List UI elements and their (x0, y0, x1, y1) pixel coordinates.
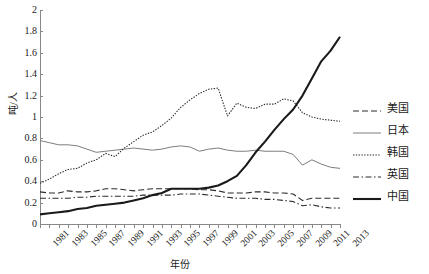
legend-line-swatch (352, 102, 382, 112)
legend-item[interactable]: 英国 (352, 162, 429, 184)
series-line (40, 141, 340, 169)
legend-line-swatch (352, 190, 382, 200)
legend-label: 美国 (387, 99, 409, 115)
legend-line-swatch (352, 146, 382, 156)
legend-item[interactable]: 日本 (352, 118, 429, 140)
legend-label: 英国 (387, 165, 409, 181)
legend-label: 日本 (387, 121, 409, 137)
legend-line-swatch (352, 124, 382, 134)
x-axis-title: 年份 (170, 256, 190, 271)
legend-item[interactable]: 中国 (352, 184, 429, 206)
legend-label: 中国 (387, 187, 409, 203)
series-line (40, 88, 340, 183)
series-line (40, 194, 340, 208)
legend-label: 韩国 (387, 143, 409, 159)
legend-item[interactable]: 韩国 (352, 140, 429, 162)
chart-container: 吨/人 00.20.40.60.811.21.41.61.82 19811983… (0, 0, 429, 274)
series-line (40, 37, 340, 215)
chart-legend: 美国日本韩国英国中国 (352, 96, 429, 206)
legend-item[interactable]: 美国 (352, 96, 429, 118)
legend-line-swatch (352, 168, 382, 178)
